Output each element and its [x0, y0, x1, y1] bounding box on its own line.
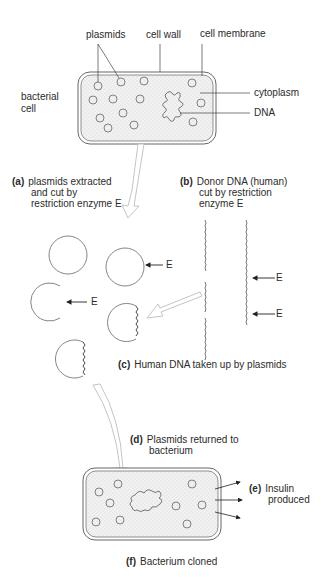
label-cytoplasm: cytoplasm	[254, 87, 299, 98]
recombinant-plasmid-d	[56, 340, 85, 378]
label-dna: DNA	[254, 107, 275, 118]
step-a-letter: (a)	[12, 176, 24, 187]
step-b-line3: enzyme E	[199, 198, 243, 209]
step-c: (c)Human DNA taken up by plasmids	[118, 359, 287, 370]
donor-dna	[205, 220, 247, 360]
arrow-b	[147, 292, 202, 318]
step-b-letter: (b)	[180, 176, 193, 187]
step-f-line1: Bacterium cloned	[140, 556, 217, 567]
label-enzyme-4: E	[276, 308, 283, 319]
label-enzyme-1: E	[166, 259, 173, 270]
step-c-letter: (c)	[118, 359, 130, 370]
arrow-a	[122, 144, 144, 218]
plasmid-intact	[49, 236, 87, 274]
step-d-line1: Plasmids returned to	[147, 434, 239, 445]
step-a: (a)plasmids extracted and cut by restric…	[12, 176, 122, 209]
bacterial-cell-bottom	[83, 468, 242, 540]
label-cell-wall: cell wall	[146, 29, 181, 40]
step-b-line2: cut by restriction	[199, 187, 272, 198]
recombinant-plasmid-c	[108, 304, 138, 342]
step-e: (e)Insulin produced	[249, 483, 310, 505]
arrow-d	[93, 384, 127, 480]
plasmid-being-cut	[106, 248, 144, 286]
label-bacterial: bacterial	[21, 91, 59, 102]
label-enzyme-2: E	[91, 296, 98, 307]
step-e-line2: produced	[268, 494, 310, 505]
step-f: (f)Bacterium cloned	[126, 556, 217, 567]
bacterial-cell-top	[78, 44, 250, 144]
step-b: (b)Donor DNA (human) cut by restriction …	[180, 176, 287, 209]
step-e-letter: (e)	[249, 483, 261, 494]
step-f-letter: (f)	[126, 556, 136, 567]
label-cell-membrane: cell membrane	[200, 28, 266, 39]
step-a-line3: restriction enzyme E	[31, 198, 122, 209]
label-cell: cell	[21, 103, 36, 114]
step-e-line1: Insulin	[265, 483, 294, 494]
plasmid-opened	[31, 283, 60, 321]
plasmid-group-a	[31, 236, 144, 321]
step-d-line2: bacterium	[149, 445, 193, 456]
step-b-line1: Donor DNA (human)	[197, 176, 288, 187]
step-c-line1: Human DNA taken up by plasmids	[134, 359, 286, 370]
step-d-letter: (d)	[130, 434, 143, 445]
label-enzyme-3: E	[276, 272, 283, 283]
step-a-line1: plasmids extracted	[28, 176, 111, 187]
step-d: (d)Plasmids returned to bacterium	[130, 434, 239, 456]
label-plasmids: plasmids	[86, 29, 125, 40]
step-a-line2: and cut by	[31, 187, 77, 198]
